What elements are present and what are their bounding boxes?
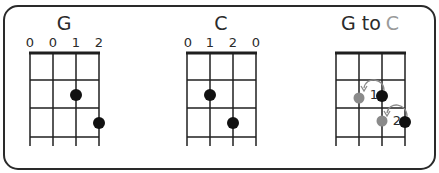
chord-name: G: [57, 12, 72, 34]
target-dot: [377, 116, 388, 127]
chord-c: C 0 1 2 0: [184, 12, 260, 146]
chord-name: C: [214, 12, 227, 34]
fretboard: [186, 53, 257, 146]
finger-dot: [204, 89, 216, 101]
finger-dot: [93, 117, 105, 129]
string-label: 0: [26, 35, 34, 50]
title-from: G to: [341, 12, 381, 34]
finger-number: 2: [393, 113, 401, 128]
finger-dot: [227, 117, 239, 129]
finger-dot: [70, 89, 82, 101]
target-dot: [354, 93, 365, 104]
string-label: 0: [49, 35, 57, 50]
transition-title: G toC: [341, 12, 399, 34]
chord-diagrams: G 0 0 1 2 C 0 1 2 0: [0, 0, 439, 173]
transition-g-to-c: G toC 1 2: [335, 12, 411, 146]
string-label: 0: [252, 35, 260, 50]
string-label: 1: [72, 35, 80, 50]
chord-g: G 0 0 1 2: [26, 12, 105, 146]
string-label: 1: [206, 35, 214, 50]
fretboard: [29, 53, 100, 146]
title-to: C: [386, 12, 399, 34]
string-label: 2: [95, 35, 103, 50]
string-label: 0: [184, 35, 192, 50]
finger-number: 1: [370, 87, 378, 102]
string-label: 2: [229, 35, 237, 50]
